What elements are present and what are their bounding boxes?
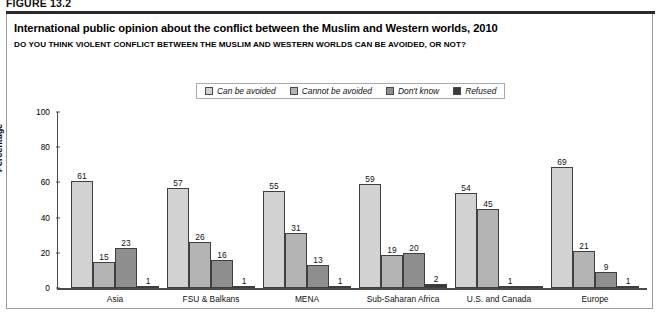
bar: 2 <box>425 284 447 288</box>
x-tick-label: MENA <box>295 294 319 304</box>
bar-group: 5531131 <box>263 191 351 288</box>
bar: 21 <box>573 251 595 288</box>
bar-wrapper: 15 <box>93 262 115 288</box>
bar: 69 <box>551 167 573 288</box>
chart-subtitle: DO YOU THINK VIOLENT CONFLICT BETWEEN TH… <box>14 40 466 49</box>
bar: 23 <box>115 248 137 288</box>
bar: 26 <box>189 242 211 288</box>
legend-swatch-icon <box>205 87 213 95</box>
y-tick-label: 100 <box>0 107 50 117</box>
bar-wrapper: 1 <box>329 286 351 288</box>
bar: 16 <box>211 260 233 288</box>
bar-group: 692191 <box>551 167 639 288</box>
bar-wrapper: 54 <box>455 193 477 288</box>
y-tick-label: 0 <box>0 283 50 293</box>
bar-value-label: 54 <box>461 183 470 193</box>
legend-swatch-icon <box>290 87 298 95</box>
bar-wrapper: 45 <box>477 209 499 288</box>
legend-label: Don't know <box>398 86 439 96</box>
bar-wrapper: 20 <box>403 253 425 288</box>
bar-group: 54451 <box>455 193 543 288</box>
bar: 1 <box>233 286 255 288</box>
legend-label: Can be avoided <box>217 86 276 96</box>
bar-wrapper: 9 <box>595 272 617 288</box>
bar-value-label: 61 <box>77 171 86 181</box>
bar-wrapper: 55 <box>263 191 285 288</box>
bar-wrapper: 31 <box>285 233 307 288</box>
bar-value-label: 21 <box>579 241 588 251</box>
bar: 54 <box>455 193 477 288</box>
chart-legend: Can be avoidedCannot be avoidedDon't kno… <box>196 83 505 99</box>
legend-item: Refused <box>453 86 496 96</box>
legend-swatch-icon <box>386 87 394 95</box>
x-tick-label: FSU & Balkans <box>183 294 240 304</box>
bar-value-label: 9 <box>604 262 609 272</box>
plot-area: 611523157261615531131591920254451692191 <box>57 112 645 288</box>
bar-wrapper: 1 <box>233 286 255 288</box>
bar-value-label: 19 <box>387 245 396 255</box>
bar-value-label: 16 <box>217 250 226 260</box>
legend-item: Don't know <box>386 86 439 96</box>
bar-wrapper: 13 <box>307 265 329 288</box>
y-tick-label: 60 <box>0 177 50 187</box>
y-tick-label: 40 <box>0 213 50 223</box>
bar-wrapper: 1 <box>617 286 639 288</box>
bar: 59 <box>359 184 381 288</box>
bar-value-label: 55 <box>269 181 278 191</box>
bar-value-label: 20 <box>409 243 418 253</box>
bar-group: 6115231 <box>71 181 159 288</box>
bar: 20 <box>403 253 425 288</box>
bar-wrapper: 69 <box>551 167 573 288</box>
x-tick-label: Europe <box>581 294 608 304</box>
legend-item: Cannot be avoided <box>290 86 372 96</box>
legend-swatch-icon <box>453 87 461 95</box>
bar-wrapper: 1 <box>137 286 159 288</box>
bar: 1 <box>329 286 351 288</box>
bar-wrapper: 57 <box>167 188 189 288</box>
figure-number-label: FIGURE 13.2 <box>6 0 71 9</box>
bar: 19 <box>381 255 403 288</box>
bar-value-label: 26 <box>195 232 204 242</box>
bar-value-label: 45 <box>483 199 492 209</box>
bar <box>521 286 543 288</box>
bar: 1 <box>617 286 639 288</box>
bar-value-label: 23 <box>121 238 130 248</box>
bar: 15 <box>93 262 115 288</box>
x-axis-line <box>57 288 647 290</box>
x-tick-label: Asia <box>107 294 123 304</box>
bar-value-label: 1 <box>338 276 343 286</box>
bar: 57 <box>167 188 189 288</box>
bar-value-label: 1 <box>242 276 247 286</box>
bar-value-label: 1 <box>626 276 631 286</box>
bar: 31 <box>285 233 307 288</box>
legend-label: Cannot be avoided <box>302 86 372 96</box>
bar: 61 <box>71 181 93 288</box>
bar-group: 5726161 <box>167 188 255 288</box>
x-tick-label: U.S. and Canada <box>467 294 531 304</box>
page-title: International public opinion about the c… <box>14 22 498 34</box>
y-tick-label: 80 <box>0 142 50 152</box>
bar-value-label: 1 <box>146 276 151 286</box>
bar-value-label: 31 <box>291 223 300 233</box>
figure-container: FIGURE 13.2 International public opinion… <box>0 0 661 313</box>
bar-wrapper: 1 <box>499 286 521 288</box>
bar-wrapper: 26 <box>189 242 211 288</box>
bar-value-label: 2 <box>434 274 439 284</box>
bar: 55 <box>263 191 285 288</box>
bar-value-label: 57 <box>173 178 182 188</box>
bar-value-label: 69 <box>557 157 566 167</box>
bar-wrapper: 19 <box>381 255 403 288</box>
bar-wrapper: 59 <box>359 184 381 288</box>
legend-item: Can be avoided <box>205 86 276 96</box>
bar-value-label: 1 <box>508 276 513 286</box>
bar: 1 <box>499 286 521 288</box>
bar-wrapper <box>521 286 543 288</box>
y-tick-label: 20 <box>0 248 50 258</box>
bar-wrapper: 23 <box>115 248 137 288</box>
bar-wrapper: 2 <box>425 284 447 288</box>
bar: 9 <box>595 272 617 288</box>
bar-wrapper: 61 <box>71 181 93 288</box>
bar-wrapper: 21 <box>573 251 595 288</box>
legend-label: Refused <box>465 86 496 96</box>
bar-value-label: 59 <box>365 174 374 184</box>
